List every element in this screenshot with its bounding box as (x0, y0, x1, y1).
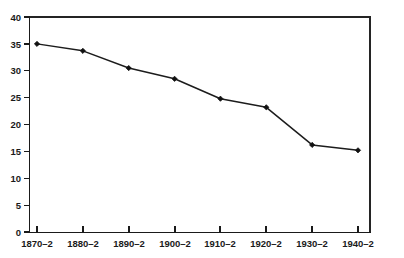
x-tick-label-1880: 1880–2 (67, 238, 99, 249)
chart-container: 40 35 30 25 20 15 10 5 0 (0, 0, 404, 258)
plot-frame (29, 17, 370, 232)
data-point (34, 41, 39, 46)
data-point (172, 76, 177, 81)
y-tick-label-40: 40 (10, 12, 21, 23)
data-point (355, 148, 360, 153)
series-markers (34, 41, 360, 153)
x-tick-label-1920: 1920–2 (250, 238, 282, 249)
y-tick-label-20: 20 (10, 119, 21, 130)
y-axis: 40 35 30 25 20 15 10 5 0 (10, 12, 30, 238)
y-tick-label-10: 10 (10, 173, 21, 184)
y-tick-label-30: 30 (10, 65, 21, 76)
y-tick-label-5: 5 (16, 200, 22, 211)
series-line (37, 44, 358, 150)
line-chart: 40 35 30 25 20 15 10 5 0 (0, 0, 404, 258)
plot-frame-border (29, 17, 370, 232)
y-tick-label-0: 0 (16, 227, 21, 238)
data-point (126, 65, 131, 70)
y-tick-label-15: 15 (10, 146, 21, 157)
data-point (80, 48, 85, 53)
y-axis-tick-labels: 40 35 30 25 20 15 10 5 0 (10, 12, 21, 238)
x-axis: 1870–2 1880–2 1890–2 1900–2 1910–2 1920–… (21, 226, 374, 249)
x-tick-label-1930: 1930–2 (296, 238, 328, 249)
data-series-1 (34, 41, 360, 153)
y-tick-label-35: 35 (10, 39, 21, 50)
x-tick-label-1900: 1900–2 (159, 238, 191, 249)
x-axis-tick-labels: 1870–2 1880–2 1890–2 1900–2 1910–2 1920–… (21, 238, 374, 249)
x-tick-label-1910: 1910–2 (204, 238, 236, 249)
x-tick-label-1870: 1870–2 (21, 238, 53, 249)
data-point (218, 96, 223, 101)
x-tick-label-1890: 1890–2 (113, 238, 145, 249)
x-tick-label-1940: 1940–2 (342, 238, 374, 249)
y-tick-label-25: 25 (10, 92, 21, 103)
